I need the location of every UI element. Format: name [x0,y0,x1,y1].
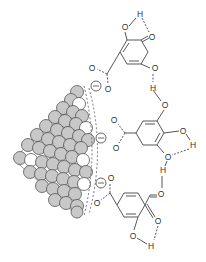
oxygen-label: O [105,84,112,94]
oxygen-label: O [111,115,118,125]
diagram-svg: O O O H O O H O O O O H O H [0,0,206,262]
particle-atoms [14,86,95,219]
nanoparticle-cluster [14,86,95,219]
hydrogen-label: H [150,83,156,93]
oxygen-label: O [155,216,162,226]
oxygen-label: O [130,231,137,241]
oxygen-label: O [122,22,129,32]
diagram-canvas: O O O H O O H O O O O H O H [0,0,206,262]
oxygen-label: O [162,100,169,110]
oxygen-label: O [149,32,156,42]
negative-charge-icon [96,178,106,188]
oxygen-label: O [113,143,120,153]
negative-charge-icon [91,81,101,91]
hydrogen-label: H [137,9,143,19]
oxygen-label: O [180,126,187,136]
hydrogen-label: H [148,241,154,251]
oxygen-label: O [108,173,115,183]
oxygen-label: O [152,63,159,73]
negative-charges [91,81,106,188]
oxygen-label: O [94,198,101,208]
oxygen-label: O [89,63,96,73]
negative-charge-icon [96,133,106,143]
oxygen-label: O [158,189,165,199]
oxygen-label: O [165,152,172,162]
hydrogen-label: H [160,165,166,175]
middle-molecule-labels: O O O O H O H [111,100,196,175]
hydrogen-label: H [190,140,196,150]
